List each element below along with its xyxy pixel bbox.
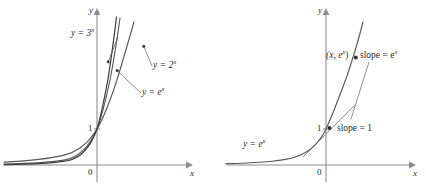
curve-e-to-the-x <box>4 18 120 164</box>
x-axis-label-left: x <box>190 168 194 178</box>
annotation-point-coordinate: (x, ex) <box>326 51 348 61</box>
label-y-equals-2-to-the-x: y = 2x <box>153 61 176 71</box>
x-axis-label-right: x <box>413 168 417 178</box>
y-tick-label-one-right: 1 <box>317 123 322 133</box>
y-axis-left <box>94 8 101 182</box>
left-chart-canvas <box>0 0 213 189</box>
y-tick-label-one-left: 1 <box>88 123 93 133</box>
y-axis-right <box>323 8 330 182</box>
point-marker-x-e-to-the-x <box>354 56 358 60</box>
annotation-slope-at-point: slope = ex <box>360 51 397 61</box>
exponential-functions-figure: y = 3x y = 2x y = ex y x 1 0 <box>0 0 426 189</box>
tangent-line-slope-e-to-the-x <box>351 62 369 119</box>
point-marker-origin-one <box>328 126 332 130</box>
right-chart-panel: (x, ex) slope = ex slope = 1 y = ex y x … <box>213 0 426 189</box>
leader-2-to-the-x <box>142 45 152 66</box>
left-chart-panel: y = 3x y = 2x y = ex y x 1 0 <box>0 0 213 189</box>
origin-label-right: 0 <box>317 167 322 177</box>
curve-2-to-the-x <box>4 22 134 162</box>
label-y-equals-3-to-the-x: y = 3x <box>71 29 94 39</box>
label-y-equals-e-to-the-x-right: y = ex <box>243 140 266 150</box>
curve-3-to-the-x <box>4 17 117 165</box>
y-axis-label-right: y <box>318 5 322 15</box>
y-axis-label-left: y <box>89 5 93 15</box>
annotation-slope-at-origin: slope = 1 <box>337 124 372 134</box>
right-chart-canvas <box>213 0 426 189</box>
label-y-equals-e-to-the-x: y = ex <box>142 88 165 98</box>
origin-label-left: 0 <box>88 167 93 177</box>
leader-e-to-the-x <box>116 69 141 93</box>
